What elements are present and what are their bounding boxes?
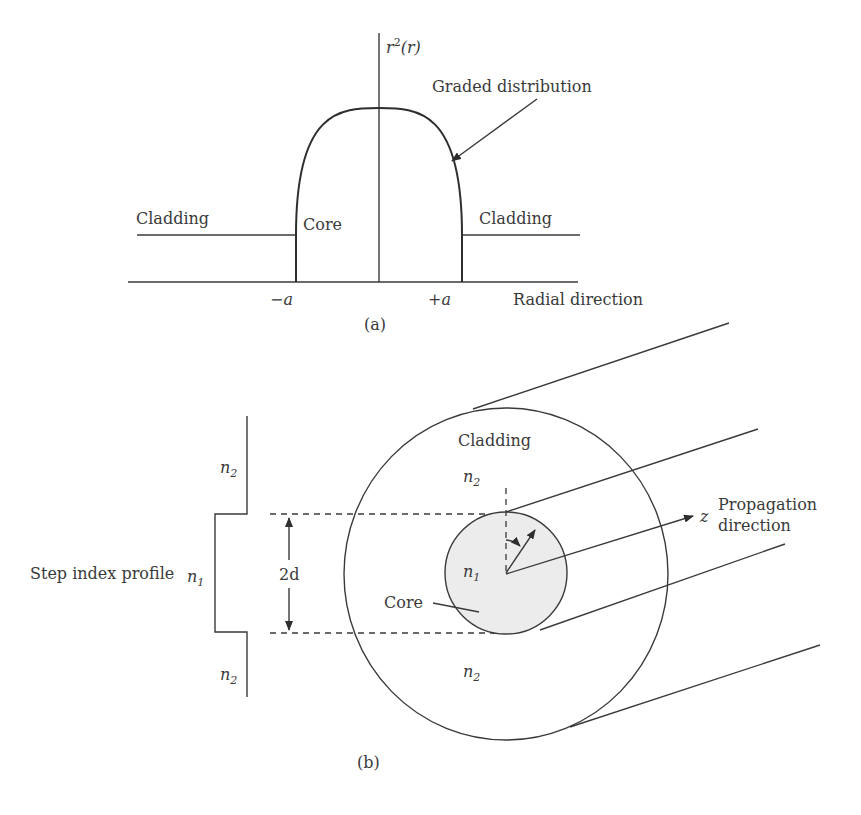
graded-pointer-arrow bbox=[452, 99, 537, 161]
cladding-label-left: Cladding bbox=[136, 209, 209, 228]
z-axis-label: z bbox=[699, 507, 709, 526]
n2-lower-label: n2 bbox=[220, 665, 237, 687]
step-index-fiber-drawing: n2 n1 n2 Step index profile 2d z Propaga… bbox=[30, 323, 820, 772]
n2-cladding-upper-label: n2 bbox=[463, 467, 480, 489]
fiber-diagram: r2(r) Graded distribution Cladding Cladd… bbox=[0, 0, 861, 815]
diameter-label: 2d bbox=[279, 565, 299, 584]
tick-label-plus-a: +a bbox=[428, 290, 451, 309]
tick-label-minus-a: −a bbox=[270, 290, 293, 309]
y-axis-label: r2(r) bbox=[386, 36, 421, 57]
cladding-lower-edge-line bbox=[570, 645, 820, 727]
cladding-label: Cladding bbox=[458, 431, 531, 450]
propagation-label-line2: direction bbox=[718, 516, 791, 535]
caption-b: (b) bbox=[357, 753, 380, 772]
graded-index-profile-plot: r2(r) Graded distribution Cladding Cladd… bbox=[128, 33, 643, 334]
core-label-b: Core bbox=[384, 593, 423, 612]
n1-profile-label: n1 bbox=[187, 567, 204, 589]
step-index-profile-label: Step index profile bbox=[30, 564, 174, 583]
core-label: Core bbox=[303, 215, 342, 234]
cladding-upper-edge-line bbox=[473, 323, 729, 409]
x-axis-label: Radial direction bbox=[513, 290, 643, 309]
cladding-label-right: Cladding bbox=[479, 209, 552, 228]
n2-upper-label: n2 bbox=[220, 458, 237, 480]
propagation-label-line1: Propagation bbox=[718, 495, 817, 514]
caption-a: (a) bbox=[364, 315, 386, 334]
graded-distribution-label: Graded distribution bbox=[432, 77, 592, 96]
n2-cladding-lower-label: n2 bbox=[463, 662, 480, 684]
